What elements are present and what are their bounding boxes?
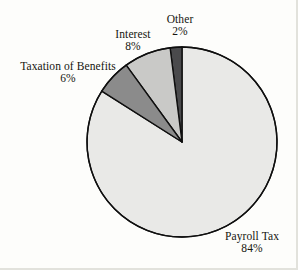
pie-chart-figure: Taxation of Benefits 6% Interest 8% Othe… [0, 0, 298, 270]
pie-label-payroll-tax: Payroll Tax 84% [212, 230, 292, 255]
pie-label-interest-name: Interest [104, 28, 162, 40]
pie-label-taxation-of-benefits: Taxation of Benefits 6% [6, 60, 130, 85]
pie-label-interest-value: 8% [104, 40, 162, 52]
pie-label-payroll-tax-name: Payroll Tax [212, 230, 292, 242]
pie-label-interest: Interest 8% [104, 28, 162, 53]
pie-label-taxation-of-benefits-name: Taxation of Benefits [6, 60, 130, 72]
pie-label-other-value: 2% [155, 25, 205, 37]
pie-label-payroll-tax-value: 84% [212, 242, 292, 254]
pie-label-other-name: Other [155, 13, 205, 25]
pie-label-taxation-of-benefits-value: 6% [6, 72, 130, 84]
pie-label-other: Other 2% [155, 13, 205, 38]
page-edge-right [296, 0, 298, 270]
